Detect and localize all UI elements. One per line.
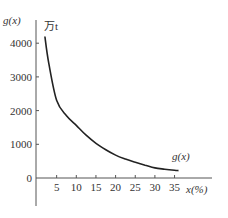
y-tick-label: 4000 [10,37,33,49]
y-tick-label: 2000 [10,105,33,117]
y-tick-label: 3000 [10,71,33,83]
chart: 5101520253035 01000200030004000 g(x) 万t … [0,0,228,218]
x-tick-label: 20 [110,181,122,193]
y-tick-label: 0 [27,172,33,184]
y-unit-label: 万t [44,20,58,32]
data-curve [45,37,179,171]
x-axis-label: x(%) [185,183,208,196]
x-tick-label: 35 [169,181,181,193]
x-tick-label: 5 [54,181,60,193]
y-ticks: 01000200030004000 [10,37,39,184]
axes [36,20,212,206]
y-axis-label: g(x) [3,14,21,27]
x-tick-label: 15 [90,181,102,193]
x-tick-label: 30 [149,181,161,193]
x-tick-label: 10 [71,181,83,193]
x-tick-label: 25 [130,181,142,193]
y-tick-label: 1000 [10,138,33,150]
curve-label: g(x) [172,150,190,163]
